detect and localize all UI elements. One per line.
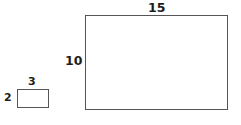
large-rectangle-height-label: 10: [65, 55, 82, 68]
geometry-figure: 3 2 15 10: [0, 0, 241, 125]
large-rectangle: [85, 15, 228, 110]
large-rectangle-width-label: 15: [148, 2, 165, 15]
small-rectangle-width-label: 3: [28, 76, 36, 87]
small-rectangle-height-label: 2: [4, 92, 12, 103]
small-rectangle: [17, 89, 49, 108]
